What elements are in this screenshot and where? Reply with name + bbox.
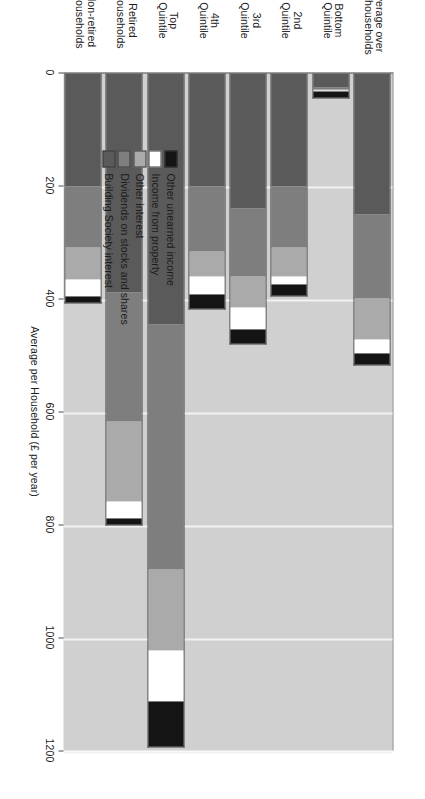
category-label-line1: Average over: [373, 0, 385, 68]
legend-item[interactable]: Other unearned income: [164, 150, 177, 324]
value-axis-title: Average per Household (£ per year): [28, 72, 40, 750]
category-label-line1: 4th: [208, 0, 220, 68]
value-tick-label: 1000: [43, 613, 55, 661]
value-tick-label: 400: [43, 274, 55, 322]
bar-segment: [148, 324, 183, 570]
category-label: 2ndQuintile: [279, 0, 302, 68]
gridline-1200: [63, 751, 392, 753]
legend-item[interactable]: Dividends on stocks and shares: [117, 150, 130, 324]
bar-segment: [65, 279, 100, 295]
bar-row: [188, 73, 225, 750]
bar-row: [270, 73, 307, 750]
legend-label: Dividends on stocks and shares: [118, 173, 130, 324]
rotated-page-wrapper: 020040060080010001200 Average per Househ…: [0, 0, 425, 799]
legend-swatch: [164, 150, 177, 167]
legend-label: Other unearned income: [164, 173, 176, 285]
value-tick-mark: [58, 298, 63, 299]
category-label: RetiredHouseholds: [114, 0, 137, 68]
category-label-line2: all households: [361, 0, 373, 68]
bar-row: [312, 73, 349, 750]
category-label-line1: Non-retired: [84, 0, 96, 68]
bar-segment: [65, 186, 100, 247]
legend-swatch: [117, 150, 130, 167]
category-label: Average overall households: [361, 0, 384, 68]
value-tick-mark: [58, 637, 63, 638]
bar-segment: [230, 73, 265, 208]
category-label-line1: Bottom: [332, 0, 344, 68]
category-label-line1: 2nd: [290, 0, 302, 68]
bar-segment: [106, 421, 141, 501]
stacked-bar[interactable]: [270, 73, 307, 296]
value-tick-mark: [58, 524, 63, 525]
category-label-line2: Quintile: [155, 0, 167, 68]
bar-segment: [313, 91, 348, 97]
value-tick-mark: [58, 72, 63, 73]
category-label: 3rdQuintile: [237, 0, 260, 68]
bar-segment: [148, 701, 183, 746]
bar-segment: [106, 518, 141, 524]
legend-label: Other interest: [133, 173, 145, 238]
value-tick-mark: [58, 185, 63, 186]
bar-segment: [354, 353, 389, 363]
chart-legend: Other unearned incomeIncome from propert…: [102, 150, 177, 324]
legend-swatch: [102, 150, 115, 167]
category-label-line2: Quintile: [279, 0, 291, 68]
category-label-line2: Quintile: [320, 0, 332, 68]
category-label-line2: Quintile: [237, 0, 249, 68]
bar-segment: [271, 186, 306, 247]
bar-segment: [230, 276, 265, 307]
category-label-line1: Top: [167, 0, 179, 68]
legend-label: Income from property: [149, 173, 161, 275]
bar-segment: [189, 294, 224, 308]
category-label-line2: Quintile: [196, 0, 208, 68]
stacked-bar[interactable]: [353, 73, 390, 365]
bar-segment: [271, 247, 306, 276]
bar-segment: [148, 650, 183, 701]
bar-segment: [354, 298, 389, 339]
value-tick-mark: [58, 750, 63, 751]
bar-segment: [271, 284, 306, 295]
legend-item[interactable]: Building Society interest: [102, 150, 115, 324]
legend-label: Building Society interest: [102, 173, 114, 288]
bar-row: [229, 73, 266, 750]
legend-item[interactable]: Other interest: [133, 150, 146, 324]
bar-segment: [354, 339, 389, 353]
bar-segment: [65, 73, 100, 186]
value-tick-mark: [58, 411, 63, 412]
bar-segment: [230, 329, 265, 343]
bar-segment: [354, 73, 389, 214]
bar-segment: [65, 296, 100, 302]
bar-segment: [148, 569, 183, 649]
bar-segment: [354, 214, 389, 298]
value-tick-label: 800: [43, 500, 55, 548]
bar-segment: [189, 251, 224, 276]
bar-row: [64, 73, 101, 750]
category-label: BottomQuintile: [320, 0, 343, 68]
category-label-line2: Households: [72, 0, 84, 68]
category-label-line2: Households: [114, 0, 126, 68]
value-tick-label: 200: [43, 161, 55, 209]
bar-segment: [106, 501, 141, 517]
value-tick-label: 600: [43, 387, 55, 435]
bar-segment: [189, 73, 224, 186]
stacked-bar[interactable]: [312, 73, 349, 98]
category-label: 4thQuintile: [196, 0, 219, 68]
category-label-line1: 3rd: [249, 0, 261, 68]
category-label: TopQuintile: [155, 0, 178, 68]
chart-figure: 020040060080010001200 Average per Househ…: [0, 0, 425, 799]
stacked-bar[interactable]: [229, 73, 266, 344]
category-label-line1: Retired: [125, 0, 137, 68]
bar-segment: [189, 276, 224, 295]
bar-segment: [271, 73, 306, 186]
stacked-bar[interactable]: [64, 73, 101, 303]
bar-segment: [313, 73, 348, 87]
bar-segment: [230, 307, 265, 330]
legend-item[interactable]: Income from property: [148, 150, 161, 324]
value-tick-label: 1200: [43, 726, 55, 774]
bar-segment: [271, 276, 306, 284]
bar-segment: [230, 208, 265, 276]
category-label: Non-retiredHouseholds: [72, 0, 95, 68]
legend-swatch: [133, 150, 146, 167]
bar-row: [353, 73, 390, 750]
stacked-bar[interactable]: [188, 73, 225, 309]
